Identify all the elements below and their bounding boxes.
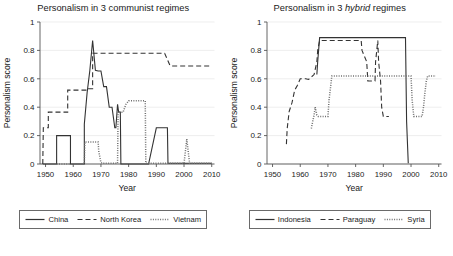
legend-label: Syria <box>407 215 424 224</box>
legend-label: North Korea <box>100 215 141 224</box>
plot-svg-communist: 00.20.40.60.8119501960197019801990200020… <box>0 14 227 210</box>
legend-item-vietnam: Vietnam <box>150 215 201 224</box>
svg-text:0.4: 0.4 <box>250 103 262 112</box>
svg-text:Year: Year <box>119 183 137 193</box>
panel-title-hybrid: Personalism in 3 hybrid regimes <box>227 0 453 14</box>
legend-wrap-communist: ChinaNorth KoreaVietnam <box>0 210 227 236</box>
legend-label: China <box>48 215 68 224</box>
legend-key-solid-icon <box>255 216 275 223</box>
svg-text:1970: 1970 <box>92 170 110 179</box>
legend-item-indonesia: Indonesia <box>255 215 311 224</box>
svg-text:2010: 2010 <box>430 170 448 179</box>
legend-label: Vietnam <box>173 215 201 224</box>
svg-text:Year: Year <box>345 183 363 193</box>
legend-key-dotted-icon <box>150 216 170 223</box>
series-indonesia <box>316 38 407 164</box>
figure-container: Personalism in 3 communist regimes 00.20… <box>0 0 453 256</box>
legend-item-syria: Syria <box>384 215 424 224</box>
legend-item-china: China <box>25 215 68 224</box>
svg-text:0.4: 0.4 <box>23 103 35 112</box>
svg-text:Personalism score: Personalism score <box>228 57 238 128</box>
legend-key-dashed-icon <box>320 216 340 223</box>
plot-area-hybrid: 00.20.40.60.8119501960197019801990200020… <box>227 14 453 210</box>
plot-area-communist: 00.20.40.60.8119501960197019801990200020… <box>0 14 227 210</box>
legend-wrap-hybrid: IndonesiaParaguaySyria <box>227 210 453 236</box>
panel-title-communist-tail: communist regimes <box>109 3 190 13</box>
legend-item-north-korea: North Korea <box>77 215 141 224</box>
svg-text:1990: 1990 <box>374 170 392 179</box>
svg-text:1980: 1980 <box>120 170 138 179</box>
series-north-korea <box>43 53 212 164</box>
legend-item-paraguay: Paraguay <box>320 215 376 224</box>
svg-text:Personalism score: Personalism score <box>2 57 12 128</box>
legend-label: Indonesia <box>278 215 311 224</box>
svg-text:1: 1 <box>257 18 262 27</box>
legend-hybrid: IndonesiaParaguaySyria <box>249 210 431 229</box>
svg-text:0.8: 0.8 <box>23 46 35 55</box>
svg-text:1960: 1960 <box>65 170 83 179</box>
legend-key-dotted-icon <box>384 216 404 223</box>
svg-text:1: 1 <box>30 18 35 27</box>
svg-text:0.2: 0.2 <box>250 131 262 140</box>
legend-communist: ChinaNorth KoreaVietnam <box>19 210 207 229</box>
svg-text:0: 0 <box>30 160 35 169</box>
svg-text:1950: 1950 <box>263 170 281 179</box>
legend-key-solid-icon <box>25 216 45 223</box>
svg-text:1960: 1960 <box>291 170 309 179</box>
panel-hybrid: Personalism in 3 hybrid regimes 00.20.40… <box>227 0 453 256</box>
svg-text:1950: 1950 <box>37 170 55 179</box>
series-paraguay <box>286 40 388 144</box>
legend-key-dashed-icon <box>77 216 97 223</box>
panel-title-hybrid-tail: regimes <box>370 3 406 13</box>
svg-text:2000: 2000 <box>175 170 193 179</box>
panel-title-communist: Personalism in 3 communist regimes <box>0 0 227 14</box>
series-syria <box>311 76 436 129</box>
panel-title-hybrid-italic: hybrid <box>345 3 370 13</box>
svg-text:0: 0 <box>257 160 262 169</box>
legend-label: Paraguay <box>343 215 376 224</box>
svg-text:2010: 2010 <box>203 170 221 179</box>
svg-text:2000: 2000 <box>402 170 420 179</box>
panel-communist: Personalism in 3 communist regimes 00.20… <box>0 0 227 256</box>
panel-title-communist-text: Personalism in 3 <box>37 3 108 13</box>
svg-text:0.8: 0.8 <box>250 46 262 55</box>
svg-text:1980: 1980 <box>346 170 364 179</box>
svg-text:0.6: 0.6 <box>250 75 262 84</box>
svg-text:0.6: 0.6 <box>23 75 35 84</box>
svg-text:1970: 1970 <box>319 170 337 179</box>
svg-text:1990: 1990 <box>148 170 166 179</box>
series-vietnam <box>57 101 212 164</box>
plot-svg-hybrid: 00.20.40.60.8119501960197019801990200020… <box>227 14 453 210</box>
svg-text:0.2: 0.2 <box>23 131 35 140</box>
panel-title-hybrid-text: Personalism in 3 <box>274 3 345 13</box>
